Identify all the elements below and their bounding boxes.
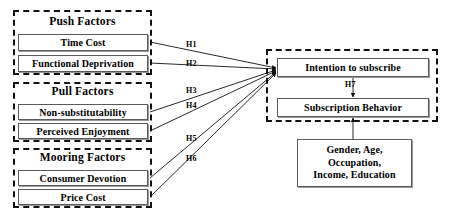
hypothesis-label-h2: H2 xyxy=(186,59,197,68)
hypothesis-arrow-h4 xyxy=(150,71,276,131)
hypothesis-label-h1: H1 xyxy=(186,40,197,49)
node-subscription-behavior[interactable]: Subscription Behavior xyxy=(277,98,429,117)
node-intention-to-subscribe[interactable]: Intention to subscribe xyxy=(277,58,429,77)
node-non-substitutability[interactable]: Non-substitutability xyxy=(18,104,148,120)
diagram-canvas: Push Factors Time Cost Functional Depriv… xyxy=(0,0,450,220)
node-time-cost[interactable]: Time Cost xyxy=(18,34,148,51)
hypothesis-label-h5: H5 xyxy=(186,134,197,143)
control-variables-line-2: Occupation, xyxy=(328,157,381,170)
group-title-push-factors: Push Factors xyxy=(13,15,152,27)
hypothesis-label-h4: H4 xyxy=(186,101,197,110)
node-control-variables[interactable]: Gender, Age, Occupation, Income, Educati… xyxy=(297,139,412,187)
control-variables-line-1: Gender, Age, xyxy=(326,144,382,157)
hypothesis-arrow-h3 xyxy=(150,70,276,112)
hypothesis-arrow-h2 xyxy=(150,63,276,69)
hypothesis-arrow-h5 xyxy=(150,72,276,178)
node-consumer-devotion[interactable]: Consumer Devotion xyxy=(18,170,148,186)
hypothesis-arrow-h6 xyxy=(150,73,276,197)
group-title-pull-factors: Pull Factors xyxy=(13,85,152,97)
node-perceived-enjoyment[interactable]: Perceived Enjoyment xyxy=(18,123,148,139)
group-title-mooring-factors: Mooring Factors xyxy=(13,151,152,163)
hypothesis-arrow-h1 xyxy=(150,42,276,68)
control-variables-line-3: Income, Education xyxy=(313,169,395,182)
hypothesis-label-h3: H3 xyxy=(186,86,197,95)
hypothesis-label-h6: H6 xyxy=(186,154,197,163)
node-functional-deprivation[interactable]: Functional Deprivation xyxy=(18,55,148,72)
hypothesis-label-h7: H7 xyxy=(345,80,356,89)
node-price-cost[interactable]: Price Cost xyxy=(18,189,148,205)
